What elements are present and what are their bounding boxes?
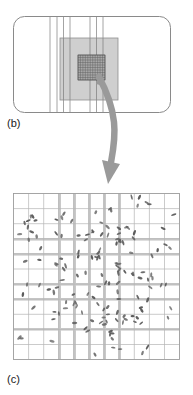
figure-svg	[0, 0, 193, 395]
figure-container: (b) (c)	[0, 0, 193, 395]
panel-b-label: (b)	[7, 118, 20, 129]
panel-c-background	[14, 194, 180, 360]
panel-c-label: (c)	[7, 374, 20, 385]
panel-b	[14, 16, 171, 113]
panel-c	[14, 194, 180, 360]
